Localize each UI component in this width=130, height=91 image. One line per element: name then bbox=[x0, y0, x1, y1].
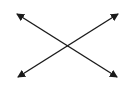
crossing-arrows-diagram bbox=[0, 0, 130, 91]
